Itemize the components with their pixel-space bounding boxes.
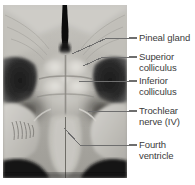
label-trochlear-nerve: Trochlear nerve (IV) — [139, 106, 180, 127]
specimen-image — [3, 5, 127, 178]
figure-root: Pineal gland Superior colliculus Inferio… — [0, 0, 195, 185]
label-pineal-gland: Pineal gland — [139, 33, 190, 44]
label-line: Fourth — [139, 140, 173, 151]
label-line: Pineal gland — [139, 33, 190, 44]
label-inferior-colliculus: Inferior colliculus — [139, 76, 177, 97]
label-line: Superior — [139, 52, 177, 63]
label-line: ventricle — [139, 151, 173, 162]
label-line: nerve (IV) — [139, 117, 180, 128]
label-line: Trochlear — [139, 106, 180, 117]
label-line: Inferior — [139, 76, 177, 87]
brainstem-specimen-photo — [3, 5, 127, 178]
photo-vignette — [3, 5, 127, 178]
label-line: colliculus — [139, 63, 177, 74]
label-line: colliculus — [139, 87, 177, 98]
label-fourth-ventricle: Fourth ventricle — [139, 140, 173, 161]
label-superior-colliculus: Superior colliculus — [139, 52, 177, 73]
